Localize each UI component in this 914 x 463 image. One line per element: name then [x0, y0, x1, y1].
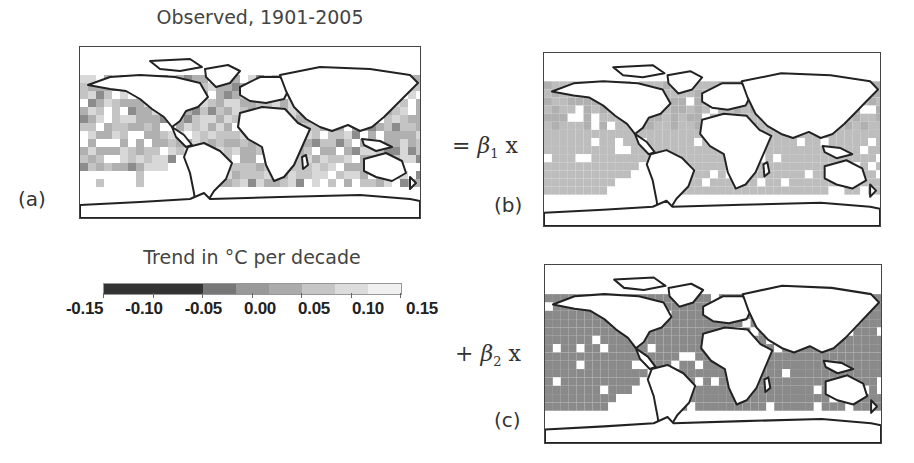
colorbar-tick	[351, 293, 352, 298]
panel-label-a: (a)	[18, 187, 46, 211]
colorbar-tick-label: -0.10	[125, 299, 162, 319]
beta1-operator: = β1 x	[452, 133, 518, 161]
colorbar-tick	[103, 293, 104, 298]
colorbar-title: Trend in °C per decade	[102, 246, 402, 268]
colorbar-tick-label: -0.15	[66, 299, 103, 319]
world-map-pattern-1	[544, 53, 880, 226]
colorbar-tick	[252, 293, 253, 298]
map-panel-c	[544, 264, 882, 444]
colorbar-tick-label: 0.15	[406, 299, 438, 319]
panel-label-b: (b)	[494, 193, 522, 217]
beta2-operator: + β2 x	[455, 341, 521, 369]
figure-title: Observed, 1901-2005	[140, 6, 380, 28]
world-map-pattern-2	[545, 265, 881, 443]
colorbar-tick	[202, 293, 203, 298]
colorbar-tick-label: -0.05	[185, 299, 222, 319]
panel-label-c: (c)	[494, 408, 521, 432]
colorbar-tick	[400, 293, 401, 298]
colorbar-tick	[301, 293, 302, 298]
map-panel-a	[79, 46, 421, 219]
colorbar-tick-labels: -0.15-0.10-0.050.000.050.100.15	[66, 299, 438, 319]
world-map-observed	[80, 47, 420, 218]
map-panel-b	[543, 52, 881, 227]
colorbar-tick-label: 0.00	[244, 299, 276, 319]
colorbar-tick-label: 0.10	[352, 299, 384, 319]
colorbar-tick	[153, 293, 154, 298]
colorbar-tick-label: 0.05	[298, 299, 330, 319]
